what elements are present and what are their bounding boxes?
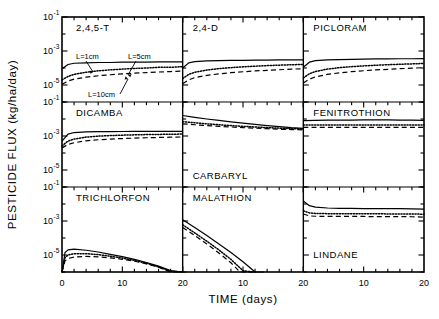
panel-title: 2,4-D bbox=[193, 22, 219, 33]
curve-solid bbox=[303, 120, 424, 121]
x-tick-label: 20 bbox=[178, 278, 188, 288]
panel-lindane bbox=[303, 201, 424, 217]
y-tick-mantissa: 10 bbox=[43, 97, 53, 107]
y-tick-mantissa: 10 bbox=[43, 250, 53, 260]
y-axis-label: PESTICIDE FLUX (kg/ha/day) bbox=[6, 60, 18, 230]
y-tick-label: 10-1 bbox=[43, 94, 60, 108]
panel-title: LINDANE bbox=[313, 249, 358, 260]
x-axis-label: TIME (days) bbox=[208, 293, 277, 305]
pesticide-flux-figure: 10-110-310-510-110-310-510-110-310-50102… bbox=[0, 0, 439, 319]
curve-dotted bbox=[62, 134, 183, 146]
y-tick-exponent: -1 bbox=[54, 94, 60, 101]
panel-malathion bbox=[183, 220, 264, 272]
x-tick-label: 20 bbox=[298, 278, 308, 288]
y-tick-exponent: -5 bbox=[54, 247, 60, 254]
panel-title: PICLORAM bbox=[313, 22, 367, 33]
y-tick-label: 10-1 bbox=[43, 179, 60, 193]
panel-title: FENITROTHION bbox=[313, 107, 390, 118]
panel-fenitrothion bbox=[303, 120, 424, 127]
legend-arrowhead-dashed bbox=[125, 76, 128, 79]
y-tick-label: 10-1 bbox=[43, 9, 60, 23]
curve-dotted bbox=[183, 225, 255, 272]
y-tick-mantissa: 10 bbox=[43, 46, 53, 56]
panel-title: 2,4,5-T bbox=[76, 22, 110, 33]
x-tick-label: 0 bbox=[59, 278, 64, 288]
y-tick-exponent: -3 bbox=[54, 43, 60, 50]
y-tick-label: 10-3 bbox=[43, 213, 60, 227]
x-tick-label: 10 bbox=[359, 278, 369, 288]
y-tick-exponent: -1 bbox=[54, 9, 60, 16]
curve-dotted bbox=[303, 211, 424, 214]
legend-leader-dashed bbox=[120, 79, 128, 94]
legend-label-dotted: L=5cm bbox=[128, 52, 151, 61]
y-tick-label: 10-3 bbox=[43, 43, 60, 57]
panel-title: TRICHLORFON bbox=[76, 192, 150, 203]
curve-solid bbox=[183, 220, 264, 272]
panel-carbaryl bbox=[183, 116, 304, 130]
plot-frame bbox=[62, 17, 424, 272]
panel-title: CARBARYL bbox=[193, 170, 248, 181]
curve-dashed bbox=[303, 214, 424, 217]
y-tick-exponent: -5 bbox=[54, 162, 60, 169]
y-tick-exponent: -3 bbox=[54, 128, 60, 135]
y-tick-mantissa: 10 bbox=[43, 80, 53, 90]
panel-title: DICAMBA bbox=[76, 107, 123, 118]
y-tick-mantissa: 10 bbox=[43, 131, 53, 141]
x-tick-label: 10 bbox=[238, 278, 248, 288]
y-tick-label: 10-5 bbox=[43, 77, 60, 91]
x-tick-label: 20 bbox=[419, 278, 429, 288]
panel-picloram bbox=[303, 59, 424, 84]
y-tick-mantissa: 10 bbox=[43, 182, 53, 192]
y-tick-mantissa: 10 bbox=[43, 165, 53, 175]
panel-2-4-5-t bbox=[62, 62, 183, 84]
curve-solid bbox=[303, 201, 424, 209]
y-tick-exponent: -3 bbox=[54, 213, 60, 220]
y-tick-label: 10-5 bbox=[43, 247, 60, 261]
y-tick-exponent: -5 bbox=[54, 77, 60, 84]
y-tick-label: 10-5 bbox=[43, 162, 60, 176]
curve-solid bbox=[62, 131, 183, 141]
panel-2-4-d bbox=[183, 60, 304, 84]
legend-label-solid: L=1cm bbox=[76, 52, 99, 61]
panel-title: MALATHION bbox=[193, 192, 252, 203]
legend-label-dashed: L=10cm bbox=[88, 90, 115, 99]
y-tick-exponent: -1 bbox=[54, 179, 60, 186]
multi-panel-log-plot: 10-110-310-510-110-310-510-110-310-50102… bbox=[0, 0, 439, 319]
y-tick-mantissa: 10 bbox=[43, 216, 53, 226]
panel-dicamba bbox=[62, 131, 183, 148]
y-tick-label: 10-3 bbox=[43, 128, 60, 142]
x-tick-label: 10 bbox=[117, 278, 127, 288]
y-tick-mantissa: 10 bbox=[43, 12, 53, 22]
